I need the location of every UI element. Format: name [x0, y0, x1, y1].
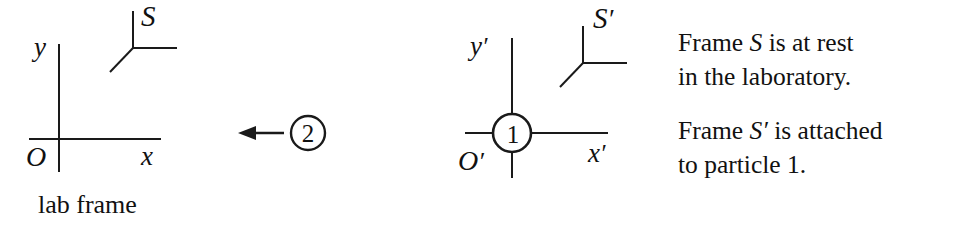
lab-frame-caption: lab frame — [38, 192, 137, 218]
primed-o-base: O — [458, 145, 478, 176]
note-1-line2: in the laboratory. — [678, 62, 851, 91]
note-2-suffix: is attached — [768, 116, 883, 145]
particle-1-label: 1 — [499, 122, 527, 147]
note-paragraph-1: Frame S is at restin the laboratory. — [678, 26, 974, 93]
note-1-symbol: S — [750, 28, 763, 57]
note-2-prefix: Frame — [678, 116, 750, 145]
note-1-prefix: Frame — [678, 28, 750, 57]
primed-o-prime: ′ — [478, 147, 484, 176]
primed-frame-x-axis-label: x′ — [588, 140, 605, 167]
note-2-line2: to particle 1. — [678, 150, 806, 179]
lab-frame-symbol-label: S — [141, 2, 156, 31]
primed-frame-origin-label: O′ — [458, 147, 484, 175]
reference-frame-figure: y x O S lab frame y′ x′ O′ S′ 2 1 Frame … — [0, 0, 974, 232]
primed-frame-triad-icon — [560, 26, 627, 87]
lab-frame-x-axis-label: x — [141, 143, 153, 170]
lab-frame-origin-label: O — [26, 143, 46, 171]
primed-x-prime: ′ — [600, 140, 605, 167]
note-2-symbol: S′ — [750, 116, 768, 145]
particle-2-label: 2 — [294, 121, 322, 146]
particle-2-velocity-arrow-icon — [238, 126, 284, 140]
note-1-suffix: is at rest — [762, 28, 853, 57]
primed-s-base: S — [593, 2, 608, 34]
lab-frame-y-axis-label: y — [34, 34, 46, 61]
primed-frame-y-axis-label: y′ — [470, 33, 487, 60]
note-paragraph-2: Frame S′ is attachedto particle 1. — [678, 114, 974, 181]
primed-s-prime: ′ — [608, 4, 614, 34]
primed-x-base: x — [588, 138, 600, 168]
explanatory-text-block: Frame S is at restin the laboratory. Fra… — [678, 26, 974, 182]
primed-y-base: y — [470, 31, 482, 61]
primed-frame-symbol-label: S′ — [593, 4, 613, 33]
primed-y-prime: ′ — [482, 33, 487, 60]
